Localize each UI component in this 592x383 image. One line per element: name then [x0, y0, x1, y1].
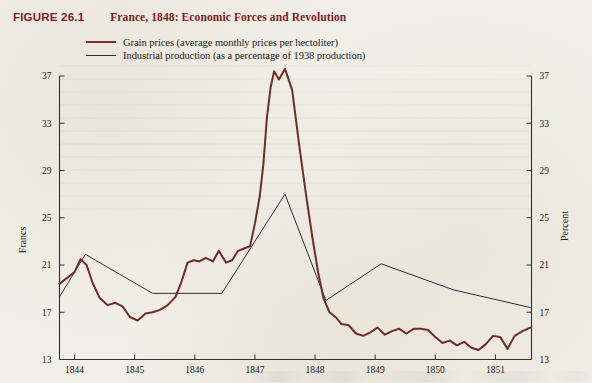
- left-axis-ticks: [60, 76, 65, 360]
- x-tick-label: 1849: [366, 365, 385, 375]
- x-tick-label: 1845: [125, 365, 144, 375]
- x-tick-label: 1850: [426, 365, 445, 375]
- left-tick-label: 21: [42, 260, 52, 270]
- chart-svg: 13172125293337 13172125293337 1844184518…: [0, 0, 592, 383]
- x-axis-ticks: [75, 355, 496, 360]
- left-axis-title: Francs: [17, 227, 28, 254]
- right-tick-label: 33: [540, 119, 550, 129]
- x-tick-label: 1846: [185, 365, 204, 375]
- figure-page: FIGURE 26.1France, 1848: Economic Forces…: [0, 0, 592, 383]
- x-tick-label: 1844: [65, 365, 84, 375]
- chart-plot-area: 13172125293337 13172125293337 1844184518…: [0, 0, 592, 383]
- right-tick-label: 17: [540, 308, 550, 318]
- right-axis-tick-labels: 13172125293337: [540, 71, 550, 365]
- right-tick-label: 21: [540, 260, 550, 270]
- left-tick-label: 13: [42, 355, 52, 365]
- x-tick-label: 1848: [306, 365, 325, 375]
- series-line-grain-prices: [60, 69, 531, 350]
- right-tick-label: 13: [540, 355, 550, 365]
- x-tick-label: 1847: [245, 365, 264, 375]
- x-tick-label: 1851: [486, 365, 505, 375]
- right-tick-label: 37: [540, 71, 550, 81]
- right-axis-title: Percent: [559, 211, 570, 241]
- left-tick-label: 17: [42, 308, 52, 318]
- right-tick-label: 29: [540, 166, 550, 176]
- left-tick-label: 33: [42, 119, 52, 129]
- right-axis-ticks: [527, 76, 532, 360]
- right-tick-label: 25: [540, 213, 550, 223]
- left-tick-label: 37: [42, 71, 52, 81]
- left-tick-label: 29: [42, 166, 52, 176]
- x-axis-tick-labels: 18441845184618471848184918501851: [65, 365, 505, 375]
- left-tick-label: 25: [42, 213, 52, 223]
- left-axis-tick-labels: 13172125293337: [42, 71, 52, 365]
- series-line-industrial-production: [60, 194, 531, 307]
